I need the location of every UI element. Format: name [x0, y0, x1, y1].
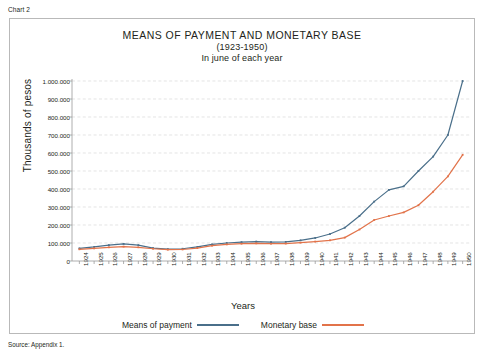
- legend-item-means-of-payment[interactable]: Means of payment: [122, 320, 239, 330]
- figure-frame: MEANS OF PAYMENT AND MONETARY BASE (1923…: [9, 18, 475, 334]
- chart-title-main: MEANS OF PAYMENT AND MONETARY BASE: [10, 29, 474, 42]
- legend-label-monetary-base: Monetary base: [261, 320, 317, 330]
- chart-number-label: Chart 2: [8, 6, 30, 13]
- legend-item-monetary-base[interactable]: Monetary base: [261, 320, 364, 330]
- source-note: Source: Appendix 1.: [8, 341, 64, 348]
- chart-legend: Means of payment Monetary base: [0, 320, 486, 330]
- chart-title-block: MEANS OF PAYMENT AND MONETARY BASE (1923…: [10, 29, 474, 64]
- legend-swatch-monetary-base: [322, 324, 364, 326]
- chart-title-years: (1923-1950): [10, 42, 474, 53]
- chart-title-subtitle: In june of each year: [10, 53, 474, 64]
- legend-label-means-of-payment: Means of payment: [122, 320, 192, 330]
- legend-swatch-means-of-payment: [197, 324, 239, 326]
